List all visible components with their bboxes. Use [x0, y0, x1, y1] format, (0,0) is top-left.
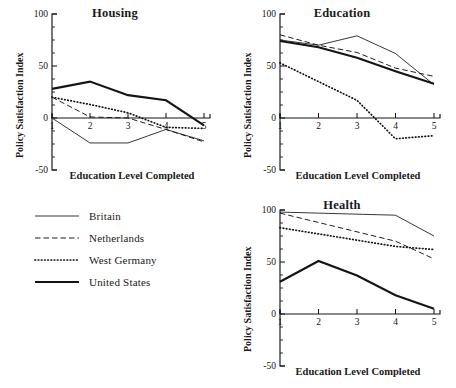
series-line-netherlands: [52, 97, 204, 142]
series-line-united-states: [52, 82, 204, 126]
y-tick-label: 50: [267, 61, 277, 71]
x-tick-label: 1: [278, 317, 283, 327]
panel-title-housing: Housing: [0, 6, 230, 21]
x-tick-label: 5: [432, 317, 437, 327]
legend-item-west-germany: West Germany: [34, 250, 157, 269]
legend-swatch-solid-thick-icon: [34, 277, 80, 287]
y-tick-label: -50: [35, 165, 48, 175]
x-tick-label: 4: [393, 121, 398, 131]
y-tick-label: 0: [43, 113, 48, 123]
x-axis-spine: [280, 114, 440, 118]
y-axis-title-health: Policy Satisfaction Index: [242, 246, 253, 352]
series-line-britain: [280, 36, 434, 85]
x-tick-label: 1: [50, 121, 55, 131]
x-axis-title-housing: Education Level Completed: [52, 170, 212, 181]
x-axis-title-education: Education Level Completed: [278, 170, 438, 181]
legend-label-united-states: United States: [89, 276, 151, 288]
legend: Britain Netherlands West Germany United …: [34, 206, 224, 292]
y-tick-label: -50: [263, 165, 276, 175]
x-tick-label: 4: [393, 317, 398, 327]
x-tick-label: 2: [316, 121, 321, 131]
series-line-united-states: [280, 41, 434, 84]
x-axis-spine: [280, 310, 440, 314]
chart-panel-health: Health Policy Satisfaction Index Educati…: [228, 190, 456, 388]
legend-label-britain: Britain: [89, 210, 121, 222]
series-line-netherlands: [280, 35, 434, 77]
x-tick-label: 2: [316, 317, 321, 327]
x-tick-label: 5: [432, 121, 437, 131]
legend-swatch-solid-thin-icon: [34, 211, 80, 221]
chart-plot-health: 100500-5012345: [228, 190, 456, 388]
chart-plot-education: 100500-5012345: [228, 0, 456, 195]
legend-label-west-germany: West Germany: [89, 254, 157, 266]
legend-item-britain: Britain: [34, 206, 121, 225]
y-tick-label: -50: [263, 361, 276, 371]
x-tick-label: 3: [355, 121, 360, 131]
x-tick-label: 3: [355, 317, 360, 327]
chart-panel-housing: Housing Policy Satisfaction Index Educat…: [0, 0, 230, 195]
x-tick-label: 5: [202, 121, 207, 131]
legend-label-netherlands: Netherlands: [89, 232, 144, 244]
y-tick-label: 0: [271, 309, 276, 319]
y-axis-title-education: Policy Satisfaction Index: [242, 52, 253, 158]
panel-title-education: Education: [228, 6, 456, 21]
x-tick-label: 2: [88, 121, 93, 131]
series-line-britain: [280, 212, 434, 236]
chart-plot-housing: 100500-5012345: [0, 0, 230, 195]
legend-swatch-dotted-icon: [34, 255, 80, 265]
y-tick-label: 0: [271, 113, 276, 123]
legend-swatch-dashed-icon: [34, 233, 80, 243]
legend-item-netherlands: Netherlands: [34, 228, 144, 247]
series-line-united-states: [280, 261, 434, 309]
series-line-west-germany: [280, 228, 434, 250]
chart-panel-education: Education Policy Satisfaction Index Educ…: [228, 0, 456, 195]
y-tick-label: 50: [39, 61, 49, 71]
y-axis-title-housing: Policy Satisfaction Index: [14, 52, 25, 158]
legend-item-united-states: United States: [34, 272, 151, 291]
x-axis-title-health: Education Level Completed: [278, 366, 438, 377]
y-tick-label: 50: [267, 257, 277, 267]
series-line-netherlands: [280, 213, 434, 259]
x-tick-label: 1: [278, 121, 283, 131]
panel-title-health: Health: [228, 198, 456, 213]
x-tick-label: 3: [126, 121, 131, 131]
